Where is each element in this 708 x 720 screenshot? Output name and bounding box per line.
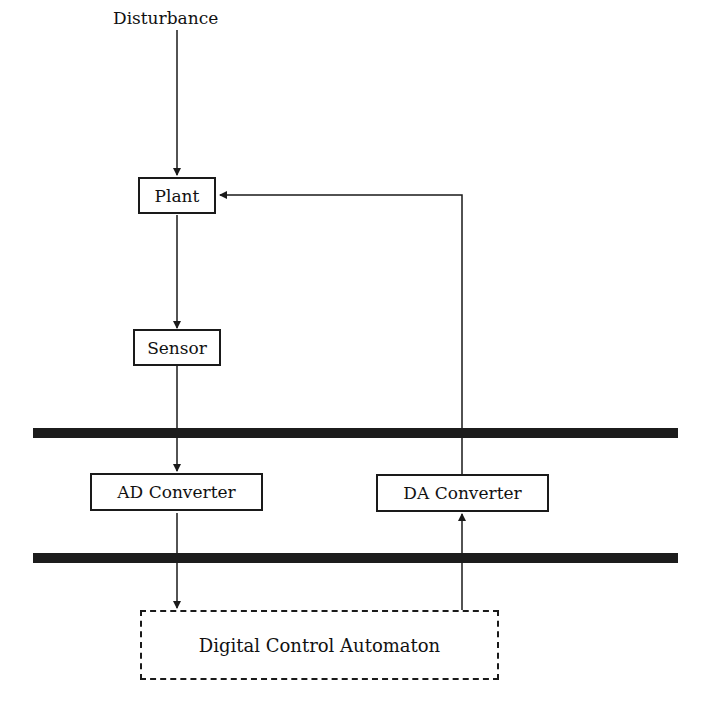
ad-converter-node: AD Converter: [90, 473, 263, 511]
lower-interface-bar: [33, 553, 678, 563]
plant-node: Plant: [138, 177, 216, 214]
sensor-node: Sensor: [133, 329, 221, 366]
disturbance-label: Disturbance: [113, 10, 218, 27]
digital-control-automaton-node: Digital Control Automaton: [140, 610, 499, 680]
da-converter-node: DA Converter: [376, 474, 549, 512]
upper-interface-bar: [33, 428, 678, 438]
